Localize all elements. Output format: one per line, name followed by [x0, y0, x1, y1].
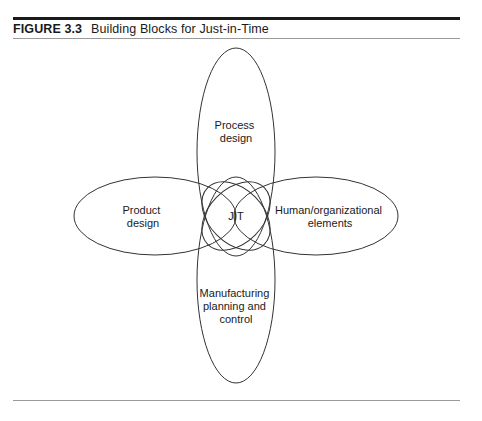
label-human-organizational: Human/organizational elements [275, 204, 385, 229]
label-manufacturing-planning: Manufacturing planning and control [200, 287, 273, 325]
ellipse-product-design [74, 177, 236, 255]
label-product-design: Product design [123, 204, 164, 229]
ellipse-human-organizational [234, 177, 398, 255]
jit-building-blocks-diagram: JIT Process design Product design Human/… [0, 0, 482, 421]
bottom-rule [13, 400, 460, 401]
label-jit: JIT [228, 210, 244, 222]
label-process-design: Process design [215, 119, 258, 144]
